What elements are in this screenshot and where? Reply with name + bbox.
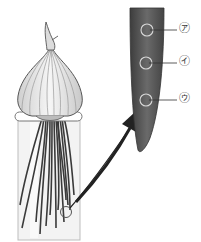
- magnified-root-tip: [130, 8, 177, 152]
- onion-bulb: [18, 22, 83, 121]
- label-u: ㋒: [178, 93, 191, 106]
- label-i: ㋑: [178, 56, 191, 69]
- label-a: ㋐: [178, 23, 191, 36]
- diagram-canvas: [0, 0, 201, 242]
